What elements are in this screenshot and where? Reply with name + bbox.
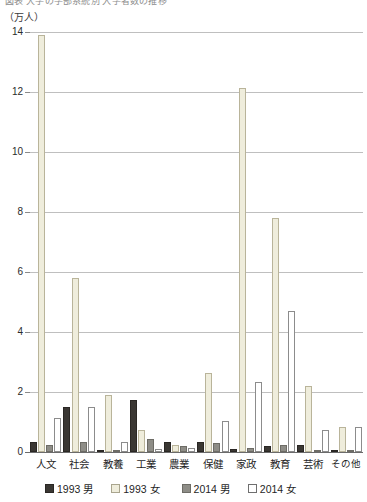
bar[interactable]: [54, 418, 61, 453]
x-axis-label: 芸術: [296, 456, 329, 474]
x-axis-label: 教育: [263, 456, 296, 474]
bar[interactable]: [38, 35, 45, 452]
bar-group: [196, 32, 229, 452]
bar[interactable]: [239, 88, 246, 453]
bar[interactable]: [339, 427, 346, 453]
plot-area: 02468101214: [29, 32, 363, 452]
bar-group: [129, 32, 162, 452]
y-axis-tick-label: 4: [1, 327, 23, 337]
bar[interactable]: [255, 382, 262, 453]
y-axis-tick-label: 14: [1, 27, 23, 37]
x-axis-labels: 人文社会教養工業農業保健家政教育芸術その他: [29, 456, 363, 474]
bar[interactable]: [138, 430, 145, 453]
y-axis-tick-label: 10: [1, 147, 23, 157]
y-axis-unit-label: （万人）: [4, 12, 44, 24]
x-axis-label: 家政: [229, 456, 262, 474]
bar[interactable]: [63, 407, 70, 452]
bar-group: [296, 32, 329, 452]
bar-group: [163, 32, 196, 452]
chart-title: 図表 大学の学部系統別 入学者数の推移: [5, 0, 345, 7]
legend-swatch-icon: [45, 484, 54, 493]
bar-groups: [29, 32, 363, 452]
bar[interactable]: [72, 278, 79, 452]
bar[interactable]: [288, 311, 295, 452]
legend-label: 1993 女: [123, 481, 159, 496]
legend-swatch-icon: [248, 484, 257, 493]
bar[interactable]: [164, 442, 171, 453]
legend-item[interactable]: 1993 女: [111, 481, 159, 496]
y-axis-tick-label: 2: [1, 387, 23, 397]
legend-label: 2014 女: [260, 481, 296, 496]
legend-swatch-icon: [111, 484, 120, 493]
legend-item[interactable]: 2014 男: [182, 481, 230, 496]
bar[interactable]: [147, 439, 154, 453]
chart-root: 図表 大学の学部系統別 入学者数の推移 （万人） 02468101214 人文社…: [0, 0, 367, 502]
bar[interactable]: [355, 427, 362, 453]
bar[interactable]: [130, 400, 137, 453]
bar[interactable]: [205, 373, 212, 453]
chart-title-text: 図表 大学の学部系統別 入学者数の推移: [5, 0, 345, 7]
x-axis-line: [25, 452, 363, 454]
x-axis-label: 工業: [129, 456, 162, 474]
bar[interactable]: [305, 386, 312, 452]
bar[interactable]: [222, 421, 229, 453]
legend-item[interactable]: 2014 女: [248, 481, 296, 496]
bar[interactable]: [80, 442, 87, 453]
bar[interactable]: [197, 442, 204, 453]
y-axis-tick-label: 0: [1, 447, 23, 457]
y-axis-tick-label: 6: [1, 267, 23, 277]
legend-swatch-icon: [182, 484, 191, 493]
bar-group: [330, 32, 363, 452]
bar[interactable]: [272, 218, 279, 452]
bar-group: [29, 32, 62, 452]
bar-group: [229, 32, 262, 452]
bar[interactable]: [88, 407, 95, 452]
x-axis-label: 教養: [96, 456, 129, 474]
bar[interactable]: [105, 395, 112, 452]
bar[interactable]: [121, 442, 128, 453]
chart-legend: 1993 男1993 女2014 男2014 女: [29, 478, 363, 498]
x-axis-label: 保健: [196, 456, 229, 474]
y-axis-tick-label: 8: [1, 207, 23, 217]
bar-group: [263, 32, 296, 452]
bar[interactable]: [30, 442, 37, 453]
x-axis-label: 人文: [29, 456, 62, 474]
bar-group: [62, 32, 95, 452]
bar-group: [96, 32, 129, 452]
bar[interactable]: [322, 430, 329, 453]
x-axis-label: その他: [330, 456, 363, 474]
x-axis-label: 社会: [62, 456, 95, 474]
legend-label: 2014 男: [194, 481, 230, 496]
legend-label: 1993 男: [57, 481, 93, 496]
y-axis-tick-label: 12: [1, 87, 23, 97]
x-axis-label: 農業: [163, 456, 196, 474]
legend-item[interactable]: 1993 男: [45, 481, 93, 496]
